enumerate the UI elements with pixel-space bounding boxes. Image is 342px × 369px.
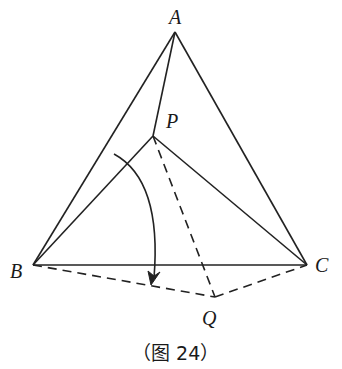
segment-bq (33, 265, 215, 297)
segment-pc (153, 136, 307, 265)
segment-ac (175, 32, 307, 265)
figure-caption: （图 24） (132, 342, 219, 364)
label-b: B (10, 260, 22, 282)
label-q: Q (202, 307, 217, 329)
segment-qc (215, 265, 307, 297)
rotation-arc (114, 154, 155, 278)
label-p: P (165, 110, 178, 132)
segment-pb (33, 136, 153, 265)
geometry-figure: A P B C Q （图 24） (0, 0, 342, 369)
label-a: A (167, 6, 182, 28)
label-c: C (315, 254, 329, 276)
segment-pq (153, 136, 215, 297)
